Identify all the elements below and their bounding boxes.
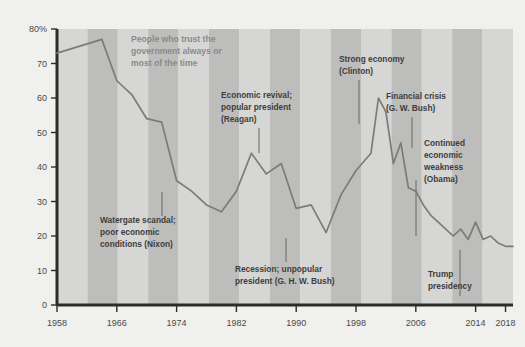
obama-line-4: (Obama) (424, 174, 458, 184)
trust-in-government-line-chart: 01020304050607080% 195819661974198219901… (0, 0, 525, 347)
reagan-line-2: popular president (221, 102, 291, 112)
y-tick-label: 10 (37, 266, 47, 276)
series-label-line-3: most of the time (131, 58, 198, 68)
term-band-dark (148, 29, 178, 305)
x-tick-label: 1974 (167, 318, 187, 328)
x-tick-label: 1990 (286, 318, 306, 328)
x-tick-label: 2014 (466, 318, 486, 328)
series-label-line-1: People who trust the (131, 34, 216, 44)
x-tick-label: 2018 (496, 318, 516, 328)
obama-line-3: weakness (423, 162, 464, 172)
reagan-line-1: Economic revival; (221, 90, 292, 100)
reagan-line-3: (Reagan) (221, 114, 257, 124)
y-tick-label: 80% (29, 24, 47, 34)
clinton-line-1: Strong economy (339, 54, 405, 64)
y-tick-label: 50 (37, 128, 47, 138)
x-tick-label: 2006 (406, 318, 426, 328)
chart-container: 01020304050607080% 195819661974198219901… (0, 0, 525, 347)
y-tick-label: 20 (37, 231, 47, 241)
term-band-light (483, 29, 513, 305)
x-tick-label: 1998 (346, 318, 366, 328)
term-band-dark (391, 29, 421, 305)
obama-line-2: economic (424, 150, 463, 160)
watergate-line-1: Watergate scandal; (100, 215, 176, 225)
watergate-line-3: conditions (Nixon) (100, 239, 173, 249)
y-tick-label: 30 (37, 197, 47, 207)
y-tick-label: 70 (37, 59, 47, 69)
trump-line-2: presidency (428, 281, 472, 291)
y-tick-label: 0 (42, 300, 47, 310)
y-tick-label: 60 (37, 93, 47, 103)
x-tick-label: 1982 (226, 318, 246, 328)
term-band-light (179, 29, 209, 305)
trump-line-1: Trump (428, 269, 453, 279)
clinton-line-2: (Clinton) (339, 66, 373, 76)
y-tick-label: 40 (37, 162, 47, 172)
ghw-bush-line-2: president (G. H. W. Bush) (235, 276, 335, 286)
gw-bush-line-2: (G. W. Bush) (386, 103, 436, 113)
x-tick-label: 1958 (47, 318, 67, 328)
ghw-bush-line-1: Recession; unpopular (235, 264, 323, 274)
x-tick-label: 1966 (107, 318, 127, 328)
series-label-line-2: government always or (131, 46, 222, 56)
watergate-line-2: poor economic (100, 227, 160, 237)
obama-line-1: Continued (424, 138, 465, 148)
gw-bush-line-1: Financial crisis (386, 91, 446, 101)
term-band-light (57, 29, 87, 305)
term-band-light (118, 29, 148, 305)
